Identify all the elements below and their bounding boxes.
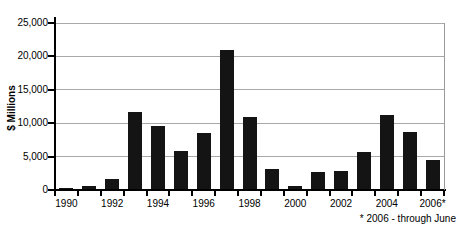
- x-axis-tick: [54, 191, 56, 196]
- x-axis-label-1990: 1990: [46, 198, 86, 210]
- y-axis-tick-label: 0: [2, 184, 48, 196]
- bar-1994: [151, 126, 165, 190]
- x-axis-tick: [77, 191, 79, 196]
- x-axis-tick: [146, 191, 148, 196]
- y-axis-tick-label: 15,000: [2, 84, 48, 96]
- plot-right-border: [444, 23, 445, 190]
- x-axis-tick: [351, 191, 353, 196]
- y-axis-tick: [48, 89, 55, 91]
- x-axis-tick: [191, 191, 193, 196]
- x-axis-tick: [420, 191, 422, 196]
- x-axis-label-2006*: 2006*: [413, 198, 453, 210]
- x-axis-tick: [374, 191, 376, 196]
- x-axis-tick: [306, 191, 308, 196]
- bar-2005: [403, 132, 417, 190]
- x-axis-tick: [260, 191, 262, 196]
- y-axis-tick: [48, 55, 55, 57]
- y-axis-tick: [48, 156, 55, 158]
- plot-area: [55, 23, 444, 190]
- x-axis-label-2002: 2002: [321, 198, 361, 210]
- y-axis-tick-label: 5,000: [2, 151, 48, 163]
- bar-2001: [311, 172, 325, 190]
- bar-1999: [265, 169, 279, 190]
- x-axis-tick: [100, 191, 102, 196]
- x-axis-tick: [237, 191, 239, 196]
- y-axis-tick-label: 10,000: [2, 117, 48, 129]
- x-axis-label-1996: 1996: [184, 198, 224, 210]
- bar-2006*: [426, 160, 440, 190]
- x-axis-tick: [397, 191, 399, 196]
- x-axis-tick: [168, 191, 170, 196]
- y-axis-tick: [48, 122, 55, 124]
- y-axis-tick-label: 20,000: [2, 50, 48, 62]
- x-axis-tick: [123, 191, 125, 196]
- bar-1993: [128, 112, 142, 190]
- gridline-15,000: [55, 89, 444, 90]
- x-axis-tick: [329, 191, 331, 196]
- x-axis-label-1998: 1998: [230, 198, 270, 210]
- bar-1997: [220, 50, 234, 190]
- x-axis-label-1992: 1992: [92, 198, 132, 210]
- x-axis-tick: [283, 191, 285, 196]
- bar-2004: [380, 115, 394, 190]
- bar-1998: [243, 117, 257, 190]
- x-axis-tick: [443, 191, 445, 196]
- x-axis-tick: [214, 191, 216, 196]
- y-axis-tick-label: 25,000: [2, 17, 48, 29]
- bar-2003: [357, 152, 371, 190]
- y-axis-line: [54, 17, 56, 192]
- x-axis-label-2004: 2004: [367, 198, 407, 210]
- gridline-25,000: [55, 23, 444, 24]
- x-axis-label-2000: 2000: [275, 198, 315, 210]
- bar-chart: $ Millions * 2006 - through June 05,0001…: [0, 0, 462, 233]
- x-axis-label-1994: 1994: [138, 198, 178, 210]
- y-axis-tick: [48, 22, 55, 24]
- gridline-20,000: [55, 56, 444, 57]
- footnote: * 2006 - through June: [360, 213, 456, 224]
- bar-1996: [197, 133, 211, 190]
- bar-2002: [334, 171, 348, 190]
- bar-1995: [174, 151, 188, 190]
- x-axis-line: [54, 189, 446, 191]
